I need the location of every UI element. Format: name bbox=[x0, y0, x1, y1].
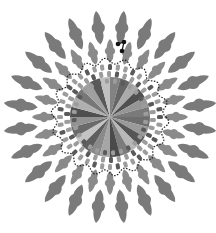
ring-block bbox=[154, 99, 161, 105]
petal bbox=[63, 182, 88, 219]
ring-block bbox=[71, 149, 78, 156]
ring-block bbox=[59, 99, 66, 105]
ring-block bbox=[57, 115, 63, 119]
ring-block bbox=[77, 154, 84, 161]
petal bbox=[51, 151, 75, 175]
ring-block bbox=[136, 154, 143, 161]
petal bbox=[119, 40, 135, 66]
petal bbox=[161, 126, 187, 142]
petal bbox=[154, 139, 180, 160]
petal bbox=[164, 156, 199, 187]
ring-block bbox=[142, 78, 149, 85]
ring-block bbox=[150, 118, 156, 122]
petal bbox=[144, 151, 168, 175]
ring-block bbox=[154, 130, 161, 136]
ring-block bbox=[84, 158, 90, 165]
petal bbox=[132, 161, 153, 187]
petal bbox=[21, 156, 56, 187]
ring-block bbox=[92, 154, 98, 161]
ring-block bbox=[147, 84, 154, 91]
ring-block bbox=[92, 161, 98, 168]
petal bbox=[33, 126, 59, 142]
ring-block bbox=[66, 143, 73, 150]
ring-block bbox=[62, 137, 69, 143]
ring-block bbox=[100, 64, 105, 71]
petal bbox=[66, 161, 87, 187]
petal bbox=[51, 58, 75, 82]
ring-block bbox=[107, 71, 111, 77]
petal bbox=[132, 16, 157, 53]
ring-block bbox=[148, 102, 155, 108]
petal bbox=[40, 28, 71, 63]
ring-block bbox=[109, 157, 113, 163]
ring-block bbox=[143, 112, 148, 116]
ring-block bbox=[151, 91, 158, 97]
petal bbox=[105, 171, 115, 195]
petal bbox=[85, 40, 101, 66]
ring-block bbox=[57, 107, 64, 112]
ring-block bbox=[111, 150, 115, 155]
petal bbox=[149, 171, 180, 206]
ring-block bbox=[64, 120, 70, 125]
petal bbox=[3, 96, 38, 114]
ring-block bbox=[130, 69, 136, 76]
petal bbox=[85, 168, 101, 194]
ring-block bbox=[115, 64, 120, 71]
ring-block bbox=[101, 156, 106, 163]
petal bbox=[164, 112, 188, 122]
ring-block bbox=[100, 163, 105, 170]
petal bbox=[40, 171, 71, 206]
petal bbox=[89, 189, 107, 224]
petal bbox=[113, 10, 131, 45]
center-pie bbox=[70, 77, 150, 157]
petal bbox=[3, 120, 38, 138]
petal bbox=[161, 92, 187, 108]
petal bbox=[144, 58, 168, 82]
petal bbox=[149, 28, 180, 63]
petal bbox=[164, 47, 199, 78]
ring-block bbox=[156, 107, 163, 112]
ring-block bbox=[136, 73, 143, 80]
petal bbox=[9, 70, 46, 95]
ring-block bbox=[115, 163, 120, 170]
ring-block bbox=[62, 91, 69, 97]
mandala-graphic bbox=[0, 0, 216, 233]
ring-block bbox=[123, 66, 129, 73]
ring-block bbox=[142, 149, 149, 156]
mandala-figure bbox=[0, 0, 216, 233]
petal bbox=[175, 70, 212, 95]
ring-block bbox=[123, 161, 129, 168]
petal bbox=[175, 139, 212, 164]
ring-block bbox=[150, 110, 156, 115]
ring-block bbox=[114, 71, 119, 78]
ring-block bbox=[108, 64, 112, 70]
petal bbox=[32, 112, 56, 122]
ring-block bbox=[105, 78, 109, 83]
petal bbox=[40, 73, 66, 94]
petal bbox=[182, 120, 216, 138]
petal bbox=[113, 189, 131, 224]
ring-block bbox=[157, 115, 163, 119]
ring-block bbox=[151, 137, 158, 143]
ring-block bbox=[84, 69, 90, 76]
ring-block bbox=[65, 127, 72, 133]
petal bbox=[182, 96, 216, 114]
ring-block bbox=[59, 130, 66, 136]
ring-block bbox=[122, 73, 128, 80]
petal bbox=[9, 139, 46, 164]
ring-block bbox=[116, 156, 121, 163]
ring-block bbox=[64, 112, 70, 116]
petal bbox=[89, 10, 107, 45]
petal bbox=[21, 47, 56, 78]
petal bbox=[33, 92, 59, 108]
ring-block bbox=[148, 125, 155, 130]
ring-block bbox=[108, 164, 112, 170]
petal bbox=[63, 16, 88, 53]
petal bbox=[119, 168, 135, 194]
ring-block bbox=[92, 66, 98, 73]
petal bbox=[132, 182, 157, 219]
ring-block bbox=[71, 118, 76, 122]
ring-block bbox=[71, 78, 78, 85]
ring-block bbox=[130, 158, 136, 165]
ring-block bbox=[99, 72, 104, 79]
